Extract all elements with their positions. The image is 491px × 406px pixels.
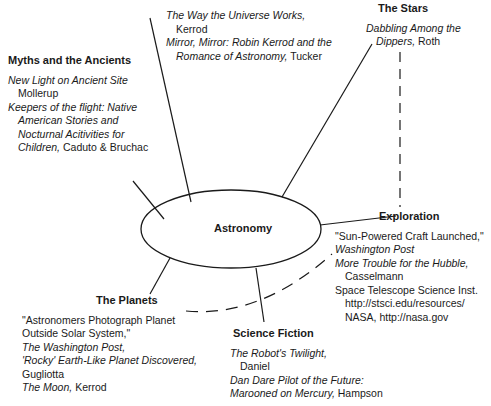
source: Washington Post	[335, 243, 484, 257]
node-heading: Science Fiction	[230, 327, 383, 341]
book-title-author: Dippers, Roth	[366, 35, 461, 49]
node-stars: The Stars Dabbling Among the Dippers, Ro…	[366, 2, 461, 49]
author: Tucker	[290, 50, 322, 62]
book-title: Keepers of the flight: Native	[8, 101, 148, 115]
author: Mollerup	[8, 87, 148, 101]
center-topic: Astronomy	[214, 222, 272, 234]
node-heading: The Planets	[22, 294, 197, 308]
book-title: Marooned on Mercury,	[230, 387, 335, 399]
website: Space Telescope Science Inst.	[335, 284, 484, 298]
node-heading: Myths and the Ancients	[8, 54, 148, 68]
book-title: Nocturnal Acitivities for	[8, 128, 148, 142]
article-title: Outside Solar System,"	[22, 327, 197, 341]
author: Hampson	[338, 387, 383, 399]
book-title-author: Marooned on Mercury, Hampson	[230, 387, 383, 401]
book-title: The Robot's Twilight,	[230, 347, 383, 361]
book-title: Mirror, Mirror: Robin Kerrod and the	[166, 36, 332, 50]
dashed-planets-exploration	[186, 254, 332, 312]
book-title: Dabbling Among the	[366, 22, 461, 36]
author: Caduto & Bruchac	[63, 141, 148, 153]
article-title: "Astronomers Photograph Planet	[22, 314, 197, 328]
book-title-author: Romance of Astronomy, Tucker	[166, 50, 332, 64]
node-planets: The Planets "Astronomers Photograph Plan…	[22, 294, 197, 395]
book-title: Children,	[18, 141, 60, 153]
line-planets	[150, 258, 170, 294]
node-scifi: Science Fiction The Robot's Twilight, Da…	[230, 327, 383, 401]
book-title: New Light on Ancient Site	[8, 74, 148, 88]
source: The Washington Post,	[22, 341, 197, 355]
article-title: 'Rocky' Earth-Like Planet Discovered,	[22, 354, 197, 368]
book-title: Romance of Astronomy,	[176, 50, 287, 62]
author: Kerrod	[75, 381, 107, 393]
book-title: Dippers,	[376, 35, 415, 47]
book-title-author: Children, Caduto & Bruchac	[8, 141, 148, 155]
node-exploration: Exploration "Sun-Powered Craft Launched,…	[335, 210, 484, 324]
article-title: "Sun-Powered Craft Launched,"	[335, 230, 484, 244]
book-title: More Trouble for the Hubble,	[335, 257, 484, 271]
book-title: The Way the Universe Works,	[166, 9, 332, 23]
book-title-author: The Moon, Kerrod	[22, 381, 197, 395]
line-scifi	[256, 268, 264, 322]
author: Gugliotta	[22, 368, 197, 382]
website: NASA, http://nasa.gov	[335, 311, 484, 325]
book-title: American Stories and	[8, 114, 148, 128]
author: Daniel	[230, 360, 383, 374]
book-title: The Moon,	[22, 381, 72, 393]
author: Casselmann	[335, 270, 484, 284]
node-top: The Way the Universe Works, Kerrod Mirro…	[166, 9, 332, 63]
website-url: http://stsci.edu/resources/	[335, 297, 484, 311]
author: Kerrod	[166, 23, 332, 37]
node-myths: Myths and the Ancients New Light on Anci…	[8, 54, 148, 155]
line-stars	[282, 44, 372, 197]
author: Roth	[418, 35, 440, 47]
book-title: Dan Dare Pilot of the Future:	[230, 374, 383, 388]
node-heading: Exploration	[335, 210, 484, 224]
node-heading: The Stars	[366, 2, 461, 16]
